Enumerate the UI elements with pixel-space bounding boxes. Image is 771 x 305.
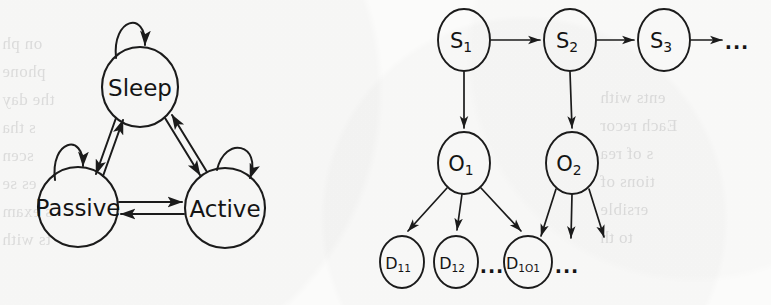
state-transition-diagram: Sleep Passive Active <box>35 23 265 248</box>
edge-o2-detection-2 <box>571 194 572 238</box>
edge-o2-detection-3 <box>589 189 604 237</box>
state-node-passive-label: Passive <box>35 195 120 221</box>
edge-o1-d11 <box>408 188 447 231</box>
node-d11-base: D <box>385 254 397 273</box>
node-d11-subscript: 11 <box>397 262 410 274</box>
node-d12-base: D <box>439 254 451 273</box>
node-s2-base: S <box>556 29 569 53</box>
svg-text:S3: S3 <box>650 29 672 55</box>
node-o1-subscript: 1 <box>465 162 474 178</box>
edge-s2-o2 <box>570 72 572 128</box>
svg-text:O2: O2 <box>556 152 581 178</box>
svg-text:S2: S2 <box>556 29 578 55</box>
svg-text:S1: S1 <box>450 29 472 55</box>
node-d12-subscript: 12 <box>451 262 464 274</box>
edge-passive-active <box>119 202 184 214</box>
node-d1o1-subscript: 1O1 <box>518 262 540 274</box>
state-variable-node-s1[interactable]: S1 <box>438 9 490 71</box>
node-s3-subscript: 3 <box>663 39 672 55</box>
node-s1-base: S <box>450 29 463 53</box>
detection-node-d1o1[interactable]: D1O1 <box>504 236 552 288</box>
svg-text:O1: O1 <box>448 152 473 178</box>
figure-canvas: on ph phone the day s tha scen es se s e… <box>0 0 771 305</box>
state-node-passive[interactable]: Passive <box>35 167 120 247</box>
node-o2-base: O <box>556 152 573 176</box>
edge-sleep-passive <box>96 118 123 176</box>
self-loop-passive <box>54 145 83 180</box>
state-variable-node-s2[interactable]: S2 <box>544 9 596 71</box>
node-o2-subscript: 2 <box>573 162 582 178</box>
node-s3-base: S <box>650 29 663 53</box>
figure-svg: Sleep Passive Active <box>0 0 771 305</box>
temporal-graphical-model: S1 S2 S3 O1 <box>380 9 749 288</box>
edge-o1-d12 <box>457 194 462 230</box>
edge-o2-detection-1 <box>541 189 556 236</box>
node-s1-subscript: 1 <box>463 39 472 55</box>
detection-node-d12[interactable]: D12 <box>434 236 478 288</box>
svg-text:D12: D12 <box>439 254 465 275</box>
edge-o1-d1o1 <box>481 188 521 231</box>
chain-ellipsis: ... <box>725 31 750 53</box>
node-s2-subscript: 2 <box>569 39 578 55</box>
state-node-active[interactable]: Active <box>185 168 265 248</box>
svg-text:D1O1: D1O1 <box>506 254 540 275</box>
node-d1o1-base: D <box>506 254 518 273</box>
observation-node-o1[interactable]: O1 <box>438 132 490 194</box>
svg-text:D11: D11 <box>385 254 411 275</box>
state-variable-node-s3[interactable]: S3 <box>638 9 690 71</box>
edge-sleep-active <box>165 115 207 175</box>
state-node-sleep[interactable]: Sleep <box>102 47 178 127</box>
o2-child-ellipsis: ... <box>555 255 580 277</box>
node-o1-base: O <box>448 152 465 176</box>
state-node-sleep-label: Sleep <box>108 75 172 101</box>
state-node-active-label: Active <box>189 196 260 222</box>
detection-node-d11[interactable]: D11 <box>380 236 424 288</box>
detection-ellipsis: ... <box>480 255 505 277</box>
observation-node-o2[interactable]: O2 <box>546 132 598 194</box>
